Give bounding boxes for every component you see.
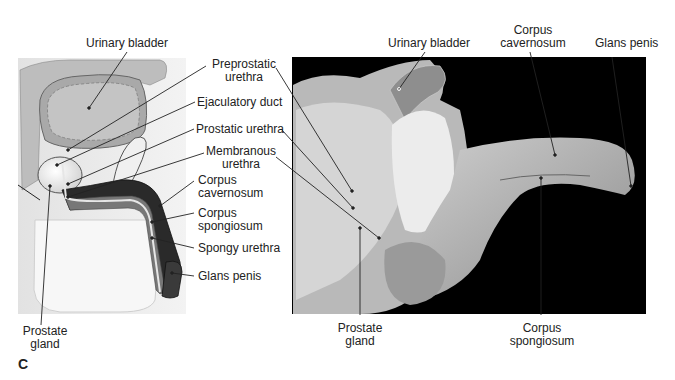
label-line: urethra [204, 158, 278, 171]
label-line: gland [20, 338, 70, 351]
label-prostate-gland: Prostate gland [20, 325, 70, 351]
label-line: spongiosum [506, 335, 578, 348]
label-preprostatic-urethra: Preprostatic urethra [208, 58, 280, 84]
label-membranous-urethra: Membranous urethra [204, 145, 278, 171]
label-corpus-cavernosum: Corpus cavernosum [198, 174, 263, 200]
photo [292, 57, 646, 314]
photo-label-prostate-gland: Prostate gland [335, 322, 385, 348]
label-line: urethra [208, 71, 280, 84]
photo-label-urinary-bladder: Urinary bladder [388, 37, 470, 50]
label-urinary-bladder: Urinary bladder [86, 37, 168, 50]
label-glans-penis: Glans penis [198, 270, 261, 283]
photo-label-corpus-cavernosum: Corpus cavernosum [498, 24, 568, 50]
photo-label-glans-penis: Glans penis [595, 37, 658, 50]
label-spongy-urethra: Spongy urethra [198, 242, 280, 255]
label-ejaculatory-duct: Ejaculatory duct [197, 96, 282, 109]
label-line: cavernosum [498, 37, 568, 50]
label-line: gland [335, 335, 385, 348]
label-line: spongiosum [198, 220, 263, 233]
label-prostatic-urethra: Prostatic urethra [196, 123, 284, 136]
label-corpus-spongiosum: Corpus spongiosum [198, 207, 263, 233]
panel-letter: C [18, 356, 28, 372]
label-line: cavernosum [198, 187, 263, 200]
photo-label-corpus-spongiosum: Corpus spongiosum [506, 322, 578, 348]
